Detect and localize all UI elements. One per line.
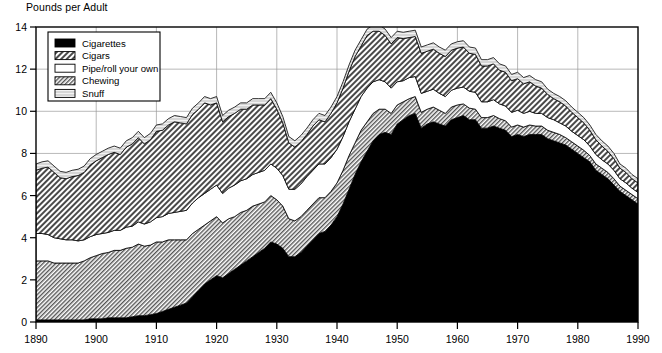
legend-label: Cigarettes <box>82 38 126 49</box>
chart-container: Pounds per Adult 02468101214 189 <box>0 0 662 353</box>
x-tick-label: 1930 <box>265 333 289 345</box>
legend-label: Snuff <box>82 88 105 99</box>
x-tick-label: 1980 <box>566 333 590 345</box>
y-tick-label: 8 <box>21 147 27 159</box>
y-axis: 02468101214 <box>15 21 36 328</box>
legend-swatch <box>55 64 75 72</box>
x-tick-label: 1940 <box>325 333 349 345</box>
y-tick-label: 12 <box>15 63 27 75</box>
legend-swatch <box>55 89 75 97</box>
x-tick-label: 1920 <box>205 333 229 345</box>
stacked-area-chart: 02468101214 1890190019101920193019401950… <box>0 0 662 353</box>
x-axis: 1890190019101920193019401950196019701980… <box>24 322 650 345</box>
x-tick-label: 1890 <box>24 333 48 345</box>
legend-label: Pipe/roll your own <box>82 63 158 74</box>
chart-legend: CigarettesCigarsPipe/roll your ownChewin… <box>48 32 160 101</box>
y-tick-label: 2 <box>21 274 27 286</box>
y-tick-label: 4 <box>21 232 27 244</box>
y-tick-label: 6 <box>21 190 27 202</box>
y-tick-label: 0 <box>21 316 27 328</box>
legend-swatch <box>55 52 75 60</box>
x-tick-label: 1900 <box>85 333 109 345</box>
x-tick-label: 1960 <box>446 333 470 345</box>
y-tick-label: 14 <box>15 21 27 33</box>
y-axis-title: Pounds per Adult <box>26 1 108 13</box>
x-tick-label: 1990 <box>626 333 650 345</box>
legend-label: Cigars <box>82 50 110 61</box>
x-tick-label: 1970 <box>506 333 530 345</box>
legend-label: Chewing <box>82 75 119 86</box>
x-tick-label: 1910 <box>145 333 169 345</box>
legend-swatch <box>55 77 75 85</box>
y-tick-label: 10 <box>15 105 27 117</box>
legend-swatch <box>55 39 75 47</box>
x-tick-label: 1950 <box>386 333 410 345</box>
